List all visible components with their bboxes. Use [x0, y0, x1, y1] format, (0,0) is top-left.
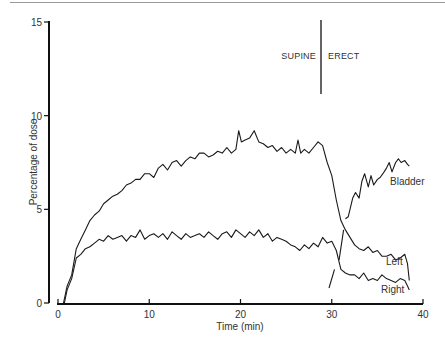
y-tick-label: 0: [36, 298, 42, 309]
x-tick-label: 0: [55, 309, 61, 320]
x-ticks: 010203040: [55, 299, 429, 320]
series-line-transition-segment-upper: [339, 230, 344, 260]
series-label-bladder: Bladder: [390, 176, 425, 187]
line-chart: 051015 010203040 Percentage of dose Time…: [0, 0, 445, 342]
y-axis-title: Percentage of dose: [28, 118, 39, 205]
erect-label: ERECT: [328, 51, 360, 61]
x-axis-title: Time (min): [216, 321, 263, 332]
series-line-transition-segment-lower: [329, 269, 335, 288]
supine-label: SUPINE: [281, 51, 316, 61]
series-line-right: [64, 230, 409, 303]
x-tick-label: 40: [417, 309, 429, 320]
series-label-right: Right: [381, 284, 405, 295]
y-tick-label: 15: [31, 17, 43, 28]
x-tick-label: 10: [144, 309, 156, 320]
series-label-left: Left: [386, 256, 403, 267]
x-tick-label: 30: [326, 309, 338, 320]
x-tick-label: 20: [235, 309, 247, 320]
series-line-bladder: [345, 159, 409, 219]
series-lines: [64, 131, 410, 303]
